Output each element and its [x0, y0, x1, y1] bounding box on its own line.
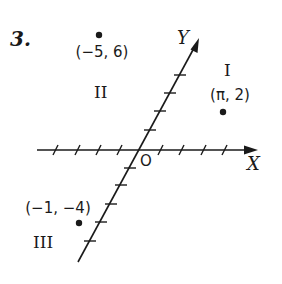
- x-axis-label: X: [245, 153, 261, 174]
- y-axis-label: Y: [177, 27, 191, 48]
- point-label-neg1-neg4: (−1, −4): [25, 199, 90, 217]
- problem-number: 3.: [10, 27, 31, 51]
- oblique-coordinate-diagram: 3. X Y: [0, 0, 282, 284]
- quadrant-ii-label: II: [94, 82, 107, 102]
- quadrant-iii-label: III: [33, 232, 53, 252]
- origin-label: O: [140, 152, 152, 170]
- point-dot-pi-2: [220, 109, 226, 115]
- point-label-pi-2: (π, 2): [210, 86, 250, 104]
- point-label-neg5-6: (−5, 6): [76, 43, 129, 61]
- point-dot-neg5-6: [96, 32, 102, 38]
- quadrant-i-label: I: [224, 60, 231, 80]
- point-dot-neg1-neg4: [76, 220, 82, 226]
